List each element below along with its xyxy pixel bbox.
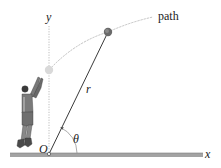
radius-label: r	[86, 83, 91, 95]
trajectory-path	[49, 17, 153, 70]
origin-label: O	[39, 143, 48, 155]
basketball-player-icon	[17, 77, 43, 148]
ball-initial-position	[45, 66, 53, 74]
diagram-canvas	[0, 0, 221, 168]
x-axis-label: x	[205, 148, 210, 160]
path-label: path	[158, 10, 179, 22]
projectile-position-diagram: y x O r θ path	[0, 0, 221, 168]
angle-label: θ	[73, 133, 79, 145]
y-axis-label: y	[46, 11, 51, 23]
